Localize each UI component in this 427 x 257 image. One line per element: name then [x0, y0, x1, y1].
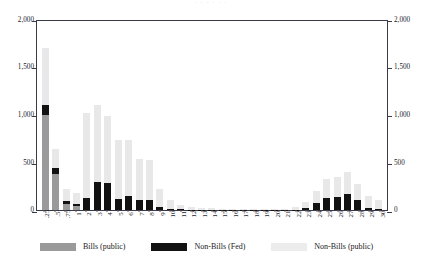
stacked-bar[interactable]: [63, 189, 70, 210]
x-axis-tick-column: 30: [375, 213, 385, 239]
y-tick-right-1500: [387, 68, 392, 69]
bar-column[interactable]: [259, 21, 269, 210]
bar-column[interactable]: [269, 21, 279, 210]
bar-segment-non-bills-public: [136, 159, 143, 199]
bar-column[interactable]: [144, 21, 154, 210]
stacked-bar[interactable]: [313, 191, 320, 210]
stacked-bar[interactable]: [167, 200, 174, 210]
bar-column[interactable]: [50, 21, 60, 210]
bar-column[interactable]: [321, 21, 331, 210]
stacked-bar[interactable]: [83, 113, 90, 210]
x-axis-tick-column: 14: [207, 213, 217, 239]
bar-segment-non-bills-public: [42, 48, 49, 105]
bar-column[interactable]: [165, 21, 175, 210]
stacked-bar[interactable]: [136, 159, 143, 210]
stacked-bar[interactable]: [365, 196, 372, 210]
x-axis-tick-column: 10: [165, 213, 175, 239]
bar-segment-non-bills-fed: [323, 198, 330, 210]
x-axis-tick-column: 4: [102, 213, 112, 239]
stacked-bar[interactable]: [115, 140, 122, 210]
stacked-bar[interactable]: [302, 202, 309, 210]
bar-segment-non-bills-public: [94, 105, 101, 182]
stacked-bar[interactable]: [73, 193, 80, 210]
bar-column[interactable]: [155, 21, 165, 210]
plot-area: [36, 20, 388, 211]
x-axis-tick-column: 21: [280, 213, 290, 239]
x-axis-tick-column: .5: [49, 213, 59, 239]
bar-column[interactable]: [113, 21, 123, 210]
x-axis-tick-column: 16: [228, 213, 238, 239]
bar-column[interactable]: [196, 21, 206, 210]
y-axis-right-label-500: 500: [394, 160, 405, 167]
bar-column[interactable]: [71, 21, 81, 210]
x-axis-tick-column: 1: [70, 213, 80, 239]
bar-column[interactable]: [248, 21, 258, 210]
x-axis-tick-column: 29: [364, 213, 374, 239]
x-axis-label-30: 30: [380, 211, 387, 218]
bar-column[interactable]: [290, 21, 300, 210]
bar-column[interactable]: [228, 21, 238, 210]
stacked-bar[interactable]: [344, 172, 351, 210]
bar-column[interactable]: [40, 21, 50, 210]
bar-segment-non-bills-fed: [83, 198, 90, 210]
bar-column[interactable]: [207, 21, 217, 210]
bar-column[interactable]: [280, 21, 290, 210]
x-axis-tick-column: 18: [249, 213, 259, 239]
bar-segment-bills-public: [52, 174, 59, 210]
stacked-bar[interactable]: [125, 140, 132, 210]
bar-segment-non-bills-fed: [42, 105, 49, 115]
bar-column[interactable]: [332, 21, 342, 210]
bar-series-container: [37, 21, 387, 210]
bar-segment-non-bills-public: [125, 140, 132, 195]
x-axis-tick-column: 22: [291, 213, 301, 239]
bar-column[interactable]: [301, 21, 311, 210]
x-axis-tick-column: 3: [91, 213, 101, 239]
stacked-bar[interactable]: [354, 184, 361, 210]
x-axis-tick-column: 20: [270, 213, 280, 239]
bar-column[interactable]: [186, 21, 196, 210]
bar-column[interactable]: [61, 21, 71, 210]
x-axis-tick-column: 28: [354, 213, 364, 239]
stacked-bar[interactable]: [104, 116, 111, 210]
bar-column[interactable]: [342, 21, 352, 210]
bar-segment-non-bills-public: [52, 149, 59, 168]
bar-column[interactable]: [134, 21, 144, 210]
bar-column[interactable]: [374, 21, 384, 210]
stacked-bar[interactable]: [323, 179, 330, 210]
y-tick-left-1000: [32, 116, 37, 117]
x-axis-tick-column: 5: [112, 213, 122, 239]
stacked-bar[interactable]: [42, 48, 49, 210]
stacked-bar[interactable]: [146, 160, 153, 210]
bar-column[interactable]: [217, 21, 227, 210]
bar-column[interactable]: [311, 21, 321, 210]
stacked-bar[interactable]: [334, 177, 341, 210]
x-axis-tick-column: 27: [343, 213, 353, 239]
bar-column[interactable]: [238, 21, 248, 210]
bar-column[interactable]: [353, 21, 363, 210]
bar-column[interactable]: [103, 21, 113, 210]
bar-segment-non-bills-fed: [115, 199, 122, 210]
legend-label-nonbills-fed: Non-Bills (Fed): [194, 243, 245, 251]
bar-column[interactable]: [82, 21, 92, 210]
bar-segment-non-bills-public: [365, 196, 372, 207]
bar-segment-non-bills-fed: [136, 200, 143, 211]
bar-column[interactable]: [92, 21, 102, 210]
stacked-bar[interactable]: [156, 189, 163, 210]
bar-segment-non-bills-public: [354, 184, 361, 200]
y-tick-right-1000: [387, 116, 392, 117]
y-axis-right-label-2000: 2,000: [394, 17, 410, 24]
bar-column[interactable]: [175, 21, 185, 210]
stacked-bar[interactable]: [52, 149, 59, 210]
bar-segment-non-bills-fed: [354, 200, 361, 210]
x-axis-tick-column: 26: [333, 213, 343, 239]
bar-column[interactable]: [123, 21, 133, 210]
legend-item-nonbills-public: Non-Bills (public): [271, 243, 373, 251]
stacked-bar[interactable]: [94, 105, 101, 210]
y-tick-right-500: [387, 164, 392, 165]
bar-segment-non-bills-fed: [94, 182, 101, 210]
bar-segment-non-bills-public: [344, 172, 351, 194]
stacked-bar[interactable]: [375, 200, 382, 210]
x-axis-tick-column: .25: [39, 213, 49, 239]
bar-column[interactable]: [363, 21, 373, 210]
bar-segment-non-bills-public: [115, 140, 122, 199]
